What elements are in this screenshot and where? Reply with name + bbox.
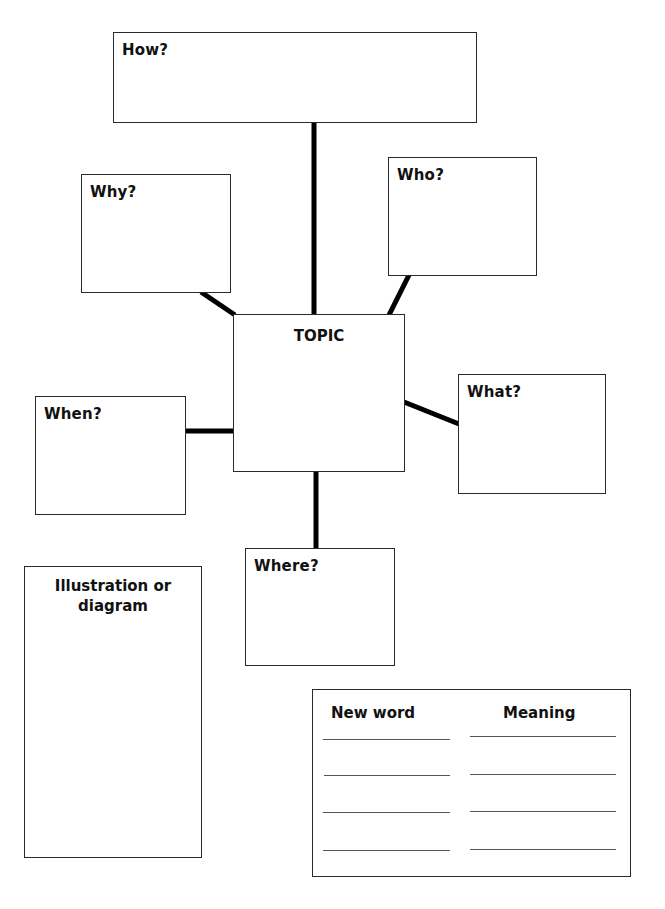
how-box[interactable]: How? <box>113 32 477 123</box>
new-word-line-2[interactable] <box>324 775 450 776</box>
what-label: What? <box>467 383 521 401</box>
when-box[interactable]: When? <box>35 396 186 515</box>
why-box[interactable]: Why? <box>81 174 231 293</box>
new-word-line-4[interactable] <box>323 850 450 851</box>
new-word-line-1[interactable] <box>323 739 450 740</box>
who-box[interactable]: Who? <box>388 157 537 276</box>
connector-why-topic <box>201 292 235 315</box>
meaning-line-3[interactable] <box>470 811 616 812</box>
how-label: How? <box>122 41 168 59</box>
when-label: When? <box>44 405 102 423</box>
illustration-box[interactable]: Illustration or diagram <box>24 566 202 858</box>
who-label: Who? <box>397 166 444 184</box>
why-label: Why? <box>90 183 137 201</box>
new-word-header: New word <box>331 704 415 722</box>
vocabulary-table: New word Meaning <box>312 689 631 877</box>
new-word-line-3[interactable] <box>323 812 450 813</box>
meaning-header: Meaning <box>503 704 575 722</box>
connector-topic-what <box>404 402 459 424</box>
illustration-label-line1: Illustration or <box>25 577 201 595</box>
topic-box[interactable]: TOPIC <box>233 314 405 472</box>
where-label: Where? <box>254 557 319 575</box>
meaning-line-4[interactable] <box>470 849 616 850</box>
meaning-line-1[interactable] <box>470 736 616 737</box>
topic-label: TOPIC <box>234 327 404 345</box>
where-box[interactable]: Where? <box>245 548 395 666</box>
illustration-label-line2: diagram <box>25 597 201 615</box>
connector-who-topic <box>389 275 409 315</box>
meaning-line-2[interactable] <box>470 774 616 775</box>
what-box[interactable]: What? <box>458 374 606 494</box>
